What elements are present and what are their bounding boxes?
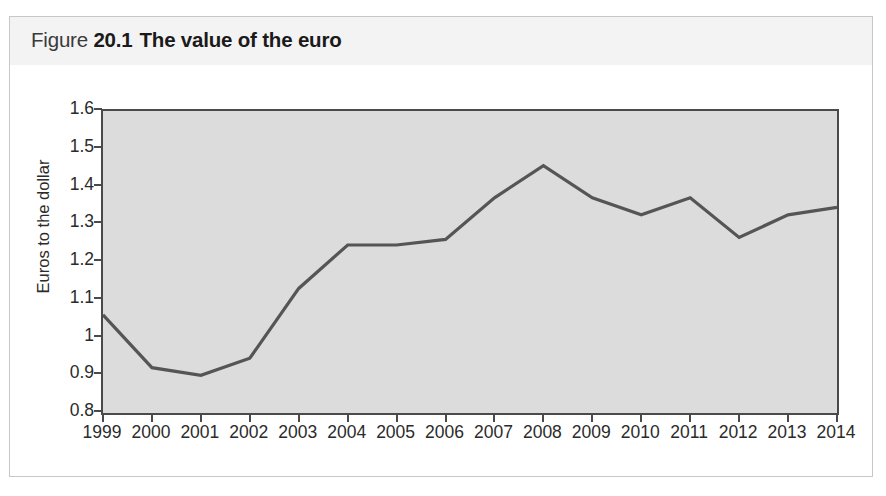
x-tick-mark xyxy=(298,413,300,422)
x-tick-mark xyxy=(787,413,789,422)
x-tick-mark xyxy=(836,413,838,422)
x-tick-mark xyxy=(689,413,691,422)
figure-number: 20.1 xyxy=(93,28,132,51)
x-tick-mark xyxy=(396,413,398,422)
x-tick-mark xyxy=(445,413,447,422)
x-tick-mark xyxy=(493,413,495,422)
x-tick-mark xyxy=(200,413,202,422)
x-tick-mark xyxy=(249,413,251,422)
line-chart: Euros to the dollar 0.80.911.11.21.31.41… xyxy=(10,65,872,476)
x-tick-mark xyxy=(347,413,349,422)
x-tick-mark xyxy=(151,413,153,422)
data-line-svg xyxy=(103,111,837,413)
x-tick-mark xyxy=(738,413,740,422)
x-tick-mark xyxy=(591,413,593,422)
figure-card: Figure 20.1The value of the euro Euros t… xyxy=(9,16,873,477)
plot-area xyxy=(101,109,839,415)
x-axis-tick-labels: 1999200020012002200320042005200620072008… xyxy=(10,423,872,453)
figure-title: Figure 20.1The value of the euro xyxy=(31,28,342,52)
x-tick-mark xyxy=(542,413,544,422)
figure-label: Figure xyxy=(31,28,88,51)
x-tick-mark xyxy=(640,413,642,422)
euro-value-line xyxy=(103,166,837,376)
y-axis-tick-marks xyxy=(10,109,105,411)
figure-title-text: The value of the euro xyxy=(140,28,342,51)
x-axis-tick-marks xyxy=(101,413,839,422)
x-tick-label: 2014 xyxy=(806,423,866,441)
x-tick-mark xyxy=(102,413,104,422)
